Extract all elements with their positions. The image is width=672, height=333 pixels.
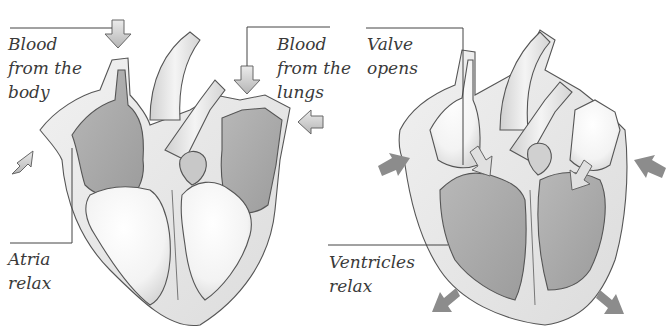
label-line: from the [277,56,351,80]
label-line: relax [8,271,51,295]
arrow-icon [105,20,131,48]
arrow-icon [298,110,323,134]
label-valve-opens: Valve opens [367,32,418,80]
label-line: Ventricles [329,250,415,274]
label-blood-from-body: Blood from the body [8,32,82,104]
label-line: lungs [277,80,351,104]
label-line: body [8,80,82,104]
label-line: opens [367,56,418,80]
left-aorta [150,32,200,120]
label-line: Atria [8,247,51,271]
label-line: Valve [367,32,418,56]
label-line: Blood [8,32,82,56]
arrow-icon [12,151,33,174]
label-line: from the [8,56,82,80]
arrow-icon [432,288,460,312]
right-heart [399,30,627,325]
label-line: relax [329,274,415,298]
heart-diagram: Blood from the body Blood from the lungs… [0,0,672,333]
arrow-icon [634,155,666,178]
arrow-icon [234,66,260,94]
label-atria-relax: Atria relax [8,247,51,295]
label-line: Blood [277,32,351,56]
label-ventricles-relax: Ventricles relax [329,250,415,298]
arrow-icon [596,290,624,314]
label-blood-from-lungs: Blood from the lungs [277,32,351,104]
